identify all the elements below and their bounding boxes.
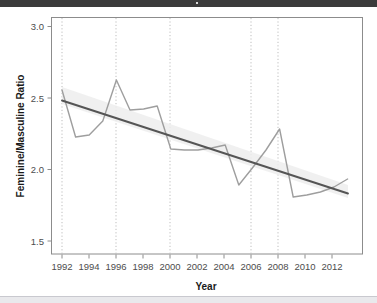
x-tick-label-1994: 1994 [78, 261, 99, 272]
titlebar-indicator-dot [196, 2, 198, 4]
x-tick-label-2002: 2002 [186, 261, 207, 272]
x-axis-ticks [62, 255, 332, 259]
x-axis-title: Year [195, 281, 216, 292]
window-titlebar [0, 0, 377, 7]
y-tick-label-3.0: 3.0 [31, 21, 44, 32]
y-tick-label-2.5: 2.5 [31, 93, 44, 104]
x-tick-label-1992: 1992 [51, 261, 72, 272]
x-tick-label-2000: 2000 [159, 261, 180, 272]
y-tick-label-2.0: 2.0 [31, 164, 44, 175]
line-chart: 3.0 2.5 2.0 1.5 1992 1994 1996 [0, 7, 377, 296]
x-tick-label-1996: 1996 [105, 261, 126, 272]
y-axis-title: Feminine/Masculine Ratio [15, 75, 26, 198]
window-footer-bar [0, 296, 377, 303]
x-tick-label-2012: 2012 [321, 261, 342, 272]
plot-frame [52, 18, 363, 255]
y-axis-ticks [48, 27, 52, 242]
x-tick-label-2010: 2010 [294, 261, 315, 272]
x-tick-label-2008: 2008 [267, 261, 288, 272]
screenshot-root: 3.0 2.5 2.0 1.5 1992 1994 1996 [0, 0, 377, 303]
x-tick-label-1998: 1998 [132, 261, 153, 272]
chart-canvas: 3.0 2.5 2.0 1.5 1992 1994 1996 [0, 7, 377, 296]
x-tick-label-2004: 2004 [213, 261, 234, 272]
y-tick-label-1.5: 1.5 [31, 236, 44, 247]
x-tick-label-2006: 2006 [240, 261, 261, 272]
